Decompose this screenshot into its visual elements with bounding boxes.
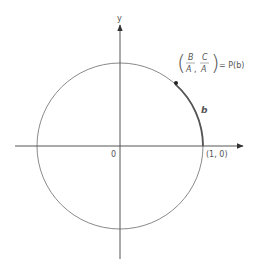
coords-separator: ,	[194, 65, 197, 74]
unit-circle-diagram: y 0 (1, 0) b ( B A , C A ) = P(b)	[0, 0, 255, 269]
point-p	[174, 81, 178, 85]
left-paren: (	[177, 50, 186, 75]
y-denominator: A	[200, 65, 206, 74]
point-1-0-label: (1, 0)	[206, 150, 228, 159]
x-denominator: A	[185, 65, 191, 74]
arc-b	[176, 84, 204, 146]
y-numerator: C	[202, 53, 208, 62]
arc-b-label: b	[201, 105, 208, 115]
origin-label: 0	[111, 150, 116, 159]
y-axis-label: y	[117, 14, 122, 23]
point-p-coordinates-label: ( B A , C A ) = P(b)	[177, 50, 244, 75]
x-numerator: B	[188, 53, 194, 62]
equals-p-b: = P(b)	[219, 61, 244, 70]
